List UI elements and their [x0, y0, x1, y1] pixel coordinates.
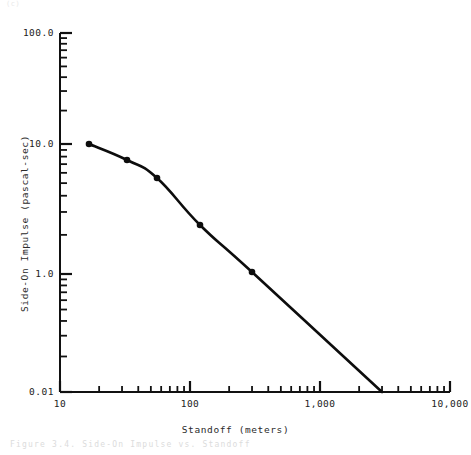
x-tick-label: 10,000 — [431, 398, 468, 409]
data-point-marker — [249, 269, 256, 276]
y-tick-label: 0.01 — [2, 386, 54, 397]
data-point-marker — [86, 141, 93, 148]
y-axis-title: Side-On Impulse (pascal-sec) — [19, 129, 30, 319]
x-tick-label: 1,000 — [304, 398, 335, 409]
data-point-marker — [124, 157, 131, 164]
data-point-marker — [197, 222, 204, 229]
y-axis-ticks — [60, 33, 72, 392]
x-tick-label: 10 — [54, 398, 66, 409]
figure-caption: Figure 3.4. Side-On Impulse vs. Standoff — [10, 440, 251, 449]
series-markers — [86, 141, 256, 276]
data-point-marker — [154, 175, 161, 182]
series-line-side-on-impulse — [89, 144, 382, 392]
x-axis-ticks — [60, 381, 450, 392]
figure-container: (c) 100.0 10.0 1.0 0.01 10 100 1,000 10,… — [0, 0, 471, 455]
x-axis-title: Standoff (meters) — [0, 424, 471, 435]
y-tick-label: 100.0 — [2, 27, 54, 38]
axes-group — [60, 33, 450, 392]
x-tick-label: 100 — [181, 398, 200, 409]
data-series-group — [86, 141, 382, 392]
chart-plot-area — [0, 0, 471, 455]
